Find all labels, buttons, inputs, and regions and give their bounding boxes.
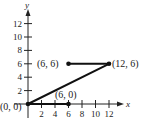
y-axis-arrow-icon <box>26 9 31 16</box>
svg-text:4: 4 <box>53 109 58 119</box>
point-6-0 <box>66 102 71 107</box>
label-point-6-6: (6, 6) <box>37 58 59 70</box>
svg-text:12: 12 <box>13 19 22 29</box>
svg-text:8: 8 <box>18 45 23 55</box>
x-axis-arrow-icon <box>117 102 124 107</box>
svg-text:10: 10 <box>13 32 23 42</box>
label-point-0-0: (0, 0) <box>0 101 22 113</box>
x-axis-label: x <box>125 99 130 109</box>
svg-text:2: 2 <box>39 109 44 119</box>
label-point-6-0: (6, 0) <box>55 89 77 101</box>
svg-text:2: 2 <box>18 86 23 96</box>
y-tick-labels: 2 4 6 8 10 12 <box>13 19 23 96</box>
y-axis-label: y <box>24 0 29 10</box>
svg-text:10: 10 <box>91 109 101 119</box>
svg-text:6: 6 <box>18 59 23 69</box>
svg-text:12: 12 <box>105 109 114 119</box>
point-12-6 <box>107 62 112 67</box>
svg-text:6: 6 <box>66 109 71 119</box>
point-0-0 <box>26 102 31 107</box>
svg-text:8: 8 <box>80 109 85 119</box>
label-point-12-6: (12, 6) <box>112 58 139 70</box>
x-tick-labels: 2 4 6 8 10 12 <box>39 109 113 119</box>
point-6-6 <box>66 62 71 67</box>
coordinate-plane: x y 2 4 6 8 10 12 2 4 6 8 10 12 <box>0 0 144 126</box>
svg-text:4: 4 <box>18 72 23 82</box>
